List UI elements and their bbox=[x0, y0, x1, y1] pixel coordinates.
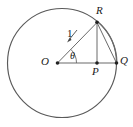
radius-length-label: 1 bbox=[67, 28, 73, 39]
point-label-R: R bbox=[96, 5, 103, 16]
figure-canvas bbox=[0, 0, 133, 127]
segment-OR bbox=[58, 23, 98, 64]
point-dot-O bbox=[56, 61, 60, 65]
angle-label-theta: θ bbox=[70, 51, 75, 61]
geometry-figure: R Q P O 1 θ bbox=[0, 0, 133, 127]
point-dot-R bbox=[95, 21, 99, 25]
point-label-P: P bbox=[92, 66, 99, 77]
point-dot-Q bbox=[115, 61, 119, 65]
point-label-Q: Q bbox=[120, 55, 128, 66]
point-label-O: O bbox=[41, 56, 49, 67]
